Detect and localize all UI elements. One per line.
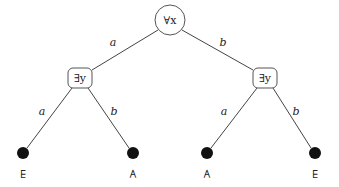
edge-root-left — [92, 30, 158, 70]
edge-left-leaf2 — [88, 88, 129, 148]
edge-root-right — [182, 30, 253, 70]
edge-label-left-b: b — [110, 105, 117, 118]
edge-right-leaf3 — [211, 88, 257, 148]
edge-label-root-left: a — [110, 36, 117, 49]
leaf-node-2 — [127, 147, 139, 159]
edge-label-right-a: a — [221, 105, 228, 118]
exists-node-right-label: ∃y — [259, 72, 272, 85]
leaf-label-2: ∀ — [129, 167, 136, 180]
edge-left-leaf1 — [27, 88, 72, 148]
game-tree-diagram: a b a b a b ∀x ∃y ∃y ∃ ∀ ∀ ∃ — [0, 0, 339, 187]
leaf-label-4: ∃ — [312, 167, 318, 180]
leaf-node-4 — [309, 147, 321, 159]
leaf-label-1: ∃ — [20, 167, 26, 180]
root-node-label: ∀x — [164, 14, 178, 27]
exists-node-left-label: ∃y — [74, 72, 87, 85]
edge-label-root-right: b — [219, 36, 226, 49]
edge-right-leaf4 — [273, 88, 311, 148]
leaf-label-3: ∀ — [203, 167, 210, 180]
leaf-node-1 — [17, 147, 29, 159]
edge-label-left-a: a — [39, 105, 46, 118]
edge-label-right-b: b — [292, 105, 299, 118]
leaf-node-3 — [201, 147, 213, 159]
